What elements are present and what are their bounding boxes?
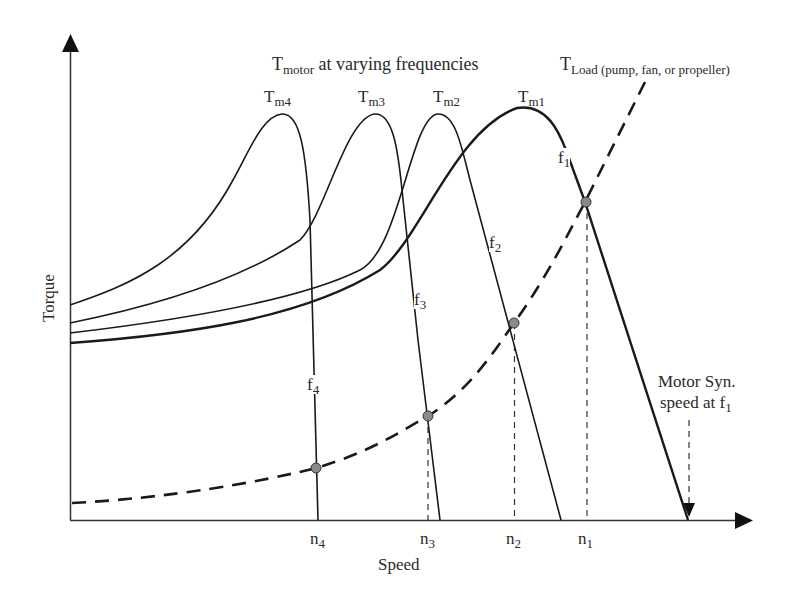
freq-label-f2: f2 <box>489 233 501 252</box>
y-axis-arrow-icon <box>62 34 79 52</box>
operating-point-n1 <box>581 197 591 207</box>
curve-tm4 <box>70 114 318 520</box>
x-axis-arrow-icon <box>735 512 753 529</box>
speed-tick-n2: n2 <box>506 530 521 547</box>
load-curve-label: TLoad (pump, fan, or propeller) <box>560 55 730 73</box>
peak-label-tm3: Tm3 <box>358 88 385 105</box>
curve-tm1 <box>70 107 688 520</box>
torque-speed-diagram <box>0 0 803 604</box>
motor-curves <box>70 107 688 520</box>
operating-point-n2 <box>509 318 519 328</box>
speed-tick-n4: n4 <box>310 530 325 547</box>
peak-label-tm2: Tm2 <box>433 88 460 105</box>
freq-label-f4: f4 <box>307 375 319 394</box>
peak-label-tm4: Tm4 <box>264 88 291 105</box>
operating-point-n4 <box>311 463 321 473</box>
freq-label-f1: f1 <box>558 148 570 167</box>
freq-label-f3: f3 <box>414 290 426 309</box>
y-axis-label: Torque <box>40 274 57 322</box>
diagram-title: Tmotor at varying frequencies <box>272 55 479 73</box>
curve-load <box>72 82 645 503</box>
speed-tick-n3: n3 <box>420 530 435 547</box>
peak-label-tm1: Tm1 <box>518 88 545 105</box>
x-axis-label: Speed <box>378 556 420 573</box>
operating-point-n3 <box>423 411 433 421</box>
curve-tm2 <box>70 114 561 520</box>
operating-points <box>311 197 591 473</box>
axes <box>62 34 753 529</box>
sync-speed-annotation-line2: speed at f1 <box>660 394 732 411</box>
sync-speed-annotation-line1: Motor Syn. <box>658 373 735 390</box>
speed-tick-n1: n1 <box>578 530 593 547</box>
